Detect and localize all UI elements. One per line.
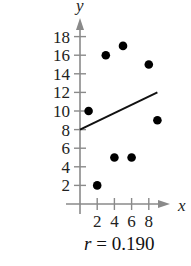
data-point	[102, 51, 111, 60]
y-tick-label: 10	[53, 102, 70, 121]
axes	[66, 18, 170, 214]
x-tick-label: 8	[145, 212, 154, 231]
scatter-chart: 246810121416182468 x y r = 0.190	[0, 0, 191, 266]
data-point	[119, 42, 128, 51]
y-tick-label: 14	[53, 65, 71, 84]
y-tick-label: 2	[62, 176, 71, 195]
data-point	[153, 116, 162, 125]
y-axis-label: y	[74, 0, 84, 15]
y-tick-label: 6	[62, 139, 71, 158]
y-tick-label: 4	[62, 158, 71, 177]
x-tick-label: 6	[127, 212, 136, 231]
data-point	[110, 153, 119, 162]
data-point	[127, 153, 136, 162]
correlation-value: 0.190	[112, 233, 155, 254]
y-tick-label: 18	[53, 28, 70, 47]
data-point	[84, 107, 93, 116]
y-tick-label: 16	[53, 46, 70, 65]
x-axis-arrow-icon	[158, 200, 170, 208]
data-point	[145, 60, 154, 69]
data-points	[84, 42, 161, 190]
x-axis-label: x	[177, 196, 186, 215]
correlation-annotation: r = 0.190	[84, 233, 154, 254]
x-tick-label: 4	[110, 212, 119, 231]
x-tick-label: 2	[93, 212, 102, 231]
y-tick-label: 8	[62, 121, 71, 140]
correlation-equals: =	[91, 233, 111, 254]
y-tick-label: 12	[53, 83, 70, 102]
data-point	[93, 181, 102, 190]
y-axis-arrow-icon	[76, 18, 84, 30]
